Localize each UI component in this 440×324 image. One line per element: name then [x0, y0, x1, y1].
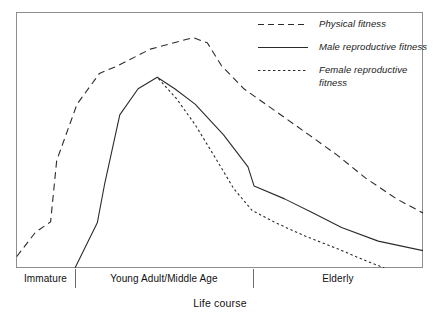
- legend-label-physical-fitness: Physical fitness: [319, 18, 434, 31]
- legend-item-physical-fitness: Physical fitness: [258, 18, 434, 32]
- legend-sample-dotted-icon: [258, 69, 308, 71]
- legend-sample-solid-icon: [258, 46, 308, 48]
- series-line-male-reproductive-fitness: [75, 77, 423, 268]
- legend-item-male-reproductive-fitness: Male reproductive fitness: [258, 41, 434, 55]
- fitness-life-course-chart: Physical fitness Male reproductive fitne…: [0, 0, 440, 324]
- legend-sample-dashed-icon: [258, 23, 308, 25]
- stage-label-young-adult-middle-age: Young Adult/Middle Age: [75, 273, 253, 284]
- legend-label-female-reproductive-fitness: Female reproductive fitness: [319, 64, 434, 89]
- x-axis-stages: ImmatureYoung Adult/Middle AgeElderly: [16, 269, 423, 291]
- series-line-female-reproductive-fitness: [158, 79, 384, 268]
- stage-label-immature: Immature: [16, 273, 75, 284]
- x-axis-title: Life course: [0, 297, 440, 309]
- stage-label-elderly: Elderly: [253, 273, 423, 284]
- legend-item-female-reproductive-fitness: Female reproductive fitness: [258, 64, 434, 89]
- legend: Physical fitness Male reproductive fitne…: [258, 18, 434, 98]
- legend-label-male-reproductive-fitness: Male reproductive fitness: [319, 41, 434, 54]
